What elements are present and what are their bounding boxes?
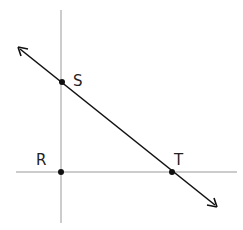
label-r: R xyxy=(36,153,46,168)
point-r xyxy=(58,169,64,175)
diagram-canvas xyxy=(0,0,243,230)
geometry-diagram: S R T xyxy=(0,0,243,230)
point-t xyxy=(169,169,175,175)
label-s: S xyxy=(73,74,83,89)
line-st xyxy=(20,49,215,205)
label-t: T xyxy=(174,153,183,168)
point-s xyxy=(59,79,65,85)
